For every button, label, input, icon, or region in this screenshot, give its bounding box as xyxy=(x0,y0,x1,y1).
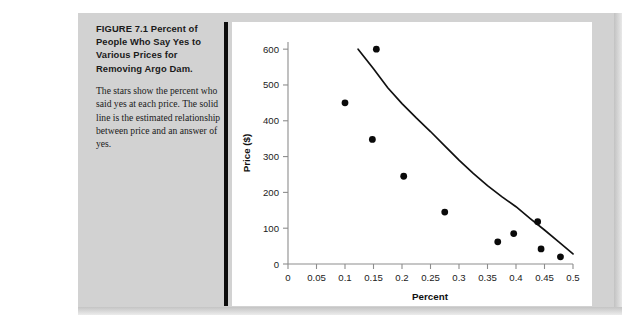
y-axis-ticks: 0100200300400500600 xyxy=(263,44,288,270)
x-tick-label: 0.25 xyxy=(421,272,440,283)
data-point xyxy=(510,230,517,237)
figure-caption-body: The stars show the percent who said yes … xyxy=(96,84,224,151)
y-tick-label: 100 xyxy=(263,223,279,234)
estimated-relationship-line xyxy=(358,49,573,254)
x-tick-label: 0.1 xyxy=(338,272,351,283)
x-tick-label: 0.15 xyxy=(364,272,383,283)
x-axis-ticks: 00.050.10.150.20.250.30.350.40.450.5 xyxy=(285,264,579,283)
figure-caption-title: FIGURE 7.1 Percent of People Who Say Yes… xyxy=(96,22,224,75)
y-tick-label: 400 xyxy=(263,115,279,126)
plot-axes xyxy=(288,42,573,264)
data-point xyxy=(373,46,380,53)
data-point xyxy=(441,209,448,216)
data-point xyxy=(400,173,407,180)
band-shadow-right xyxy=(614,13,622,315)
y-tick-label: 600 xyxy=(263,44,279,55)
x-tick-label: 0.3 xyxy=(452,272,465,283)
data-point xyxy=(538,246,545,253)
figure-panel: FIGURE 7.1 Percent of People Who Say Yes… xyxy=(0,0,630,328)
data-point xyxy=(534,218,541,225)
x-tick-label: 0.5 xyxy=(566,272,579,283)
y-tick-label: 500 xyxy=(263,79,279,90)
chart-area: 0100200300400500600 00.050.10.150.20.250… xyxy=(232,22,592,306)
y-tick-label: 200 xyxy=(263,187,279,198)
x-tick-label: 0.35 xyxy=(478,272,497,283)
x-tick-label: 0.05 xyxy=(307,272,326,283)
x-tick-label: 0.2 xyxy=(395,272,408,283)
x-tick-label: 0 xyxy=(285,272,290,283)
data-point xyxy=(557,253,564,260)
band-shadow-bottom xyxy=(78,307,622,315)
y-tick-label: 300 xyxy=(263,151,279,162)
x-tick-label: 0.4 xyxy=(509,272,523,283)
figure-divider-bar xyxy=(224,22,228,306)
figure-number: FIGURE 7.1 xyxy=(96,23,148,34)
scatter-plot-svg: 0100200300400500600 00.050.10.150.20.250… xyxy=(232,22,592,306)
y-tick-label: 0 xyxy=(274,259,279,270)
x-tick-label: 0.45 xyxy=(535,272,554,283)
data-point xyxy=(342,99,349,106)
data-point xyxy=(494,238,501,245)
x-axis-title: Percent xyxy=(412,291,449,302)
y-axis-title: Price ($) xyxy=(241,134,252,173)
data-point xyxy=(369,136,376,143)
figure-caption: FIGURE 7.1 Percent of People Who Say Yes… xyxy=(96,22,224,306)
